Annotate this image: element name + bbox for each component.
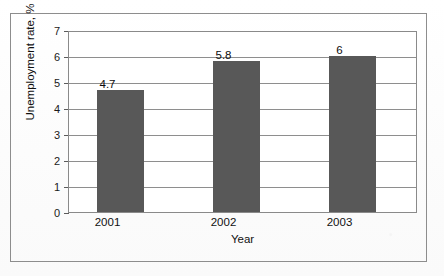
bar-value-2002: 5.8 — [200, 49, 247, 61]
bar-2003 — [329, 56, 376, 212]
y-tick-label-2: 2 — [38, 156, 60, 167]
y-tick-label-0: 0 — [38, 208, 60, 219]
y-tick-label-1: 1 — [38, 182, 60, 193]
y-axis-title: Unemployment rate, % — [24, 0, 36, 142]
x-tick-label-2001: 2001 — [84, 216, 131, 228]
y-tick-label-7: 7 — [38, 26, 60, 37]
y-tick-label-4: 4 — [38, 104, 60, 115]
y-tick-mark-0 — [64, 213, 69, 214]
bar-value-2003: 6 — [316, 44, 363, 56]
x-tick-label-2002: 2002 — [200, 216, 247, 228]
y-tick-label-6: 6 — [38, 52, 60, 63]
y-tick-label-3: 3 — [38, 130, 60, 141]
bar-2001 — [97, 90, 144, 212]
y-tick-label-5: 5 — [38, 78, 60, 89]
x-tick-label-2003: 2003 — [316, 216, 363, 228]
bar-value-2001: 4.7 — [84, 78, 131, 90]
chart-screenshot: Unemployment rate, % 7 6 5 4 3 2 1 0 4.7… — [0, 0, 444, 276]
bar-2002 — [213, 61, 260, 212]
x-axis-title: Year — [68, 233, 417, 245]
